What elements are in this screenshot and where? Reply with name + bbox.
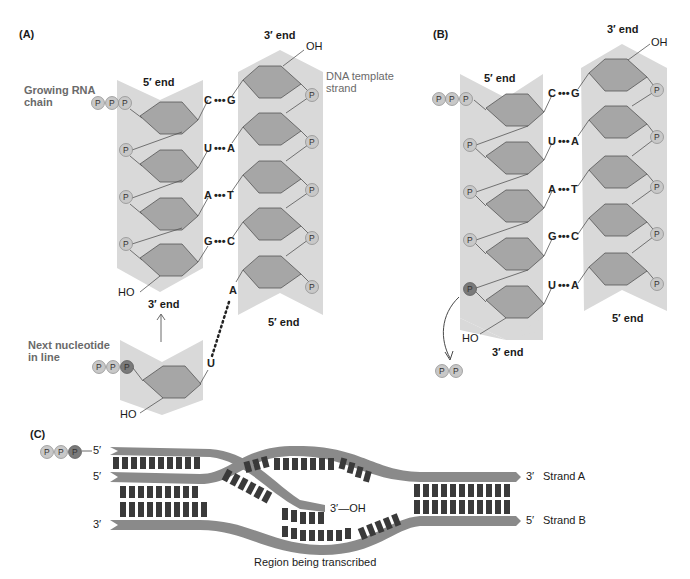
phosphate: P (120, 191, 133, 204)
phosphate: P (651, 181, 664, 194)
svg-text:C: C (227, 235, 235, 247)
svg-text:G: G (204, 235, 213, 247)
svg-text:P: P (309, 137, 315, 147)
svg-text:P: P (654, 132, 660, 142)
rna-ho-label: HO (462, 332, 479, 344)
base-pair: A•••T (204, 189, 234, 201)
svg-text:A: A (571, 279, 579, 291)
rna-3-end-label: 3′ end (148, 298, 179, 310)
transcription-diagram: (A) Growing RNA chain 5′ end (0, 0, 690, 579)
svg-text:P: P (654, 279, 660, 289)
svg-text:P: P (309, 185, 315, 195)
panel-a: (A) Growing RNA chain 5′ end (19, 28, 394, 420)
base-pair: U•••A (548, 279, 579, 291)
phosphate: P (464, 186, 477, 199)
svg-text:P: P (436, 94, 442, 104)
rna-5-end-label: 5′ end (484, 72, 515, 84)
dna-5-end-label: 5′ end (612, 312, 643, 324)
phosphate: P (306, 281, 319, 294)
base-pair: U•••A (204, 142, 235, 154)
phosphate: P (120, 238, 133, 251)
base-pair: G•••C (204, 235, 235, 247)
svg-text:P: P (72, 447, 78, 457)
phosphate: P (651, 228, 664, 241)
svg-text:P: P (110, 362, 116, 372)
phosphate-group: P P P (433, 93, 473, 106)
svg-text:P: P (467, 235, 473, 245)
next-nucleotide-label: Next nucleotide (28, 339, 110, 351)
svg-text:P: P (309, 90, 315, 100)
svg-text:P: P (463, 94, 469, 104)
svg-text:U: U (548, 135, 556, 147)
svg-text:T: T (571, 183, 578, 195)
svg-text:P: P (124, 362, 130, 372)
dna-template-label-2: strand (326, 82, 357, 94)
strand-b (110, 516, 521, 555)
svg-text:P: P (95, 98, 101, 108)
phosphate: P (464, 139, 477, 152)
svg-text:P: P (44, 447, 50, 457)
dna-template-label: DNA template (326, 70, 394, 82)
svg-text:A: A (227, 142, 235, 154)
phosphate: P (120, 144, 133, 157)
base-pair: A•••T (548, 183, 578, 195)
svg-text:P: P (654, 229, 660, 239)
svg-text:C: C (548, 87, 556, 99)
triphosphate-group: P P P (93, 361, 134, 374)
next-nucleotide-label-2: in line (28, 351, 60, 363)
strand-b-right-label: 5′ (526, 514, 534, 526)
next-nucleotide-ho: HO (120, 408, 137, 420)
dna-oh-label: OH (651, 36, 668, 48)
strand-a-label: Strand A (543, 470, 586, 482)
pyrophosphate: P P (436, 365, 463, 378)
svg-text:P: P (309, 282, 315, 292)
svg-text:•••: ••• (214, 142, 226, 154)
rna-3-end-label: 3′ end (492, 346, 523, 358)
svg-text:•••: ••• (558, 230, 570, 242)
panel-b: (B) 5′ end (433, 23, 668, 378)
svg-text:P: P (439, 366, 445, 376)
base-pair: G•••C (548, 230, 579, 242)
strand-b-label: Strand B (543, 514, 586, 526)
phosphate: P (306, 89, 319, 102)
svg-text:A: A (548, 183, 556, 195)
curved-arrow-icon (443, 297, 459, 360)
rna-5-prime-label: 5′ (93, 444, 101, 456)
svg-text:P: P (122, 98, 128, 108)
svg-text:P: P (654, 182, 660, 192)
phosphate: P (651, 278, 664, 291)
svg-text:G: G (548, 230, 557, 242)
svg-text:•••: ••• (214, 235, 226, 247)
phosphate: P (306, 232, 319, 245)
phosphate: P (651, 84, 664, 97)
rna-5-end-label: 5′ end (143, 76, 174, 88)
svg-text:G: G (227, 94, 236, 106)
phosphate-new: P (464, 283, 477, 296)
svg-text:U: U (204, 142, 212, 154)
base-pair: C•••G (548, 87, 580, 99)
svg-text:C: C (204, 94, 212, 106)
base-pair: C•••G (204, 94, 236, 106)
svg-text:P: P (309, 233, 315, 243)
svg-text:P: P (123, 192, 129, 202)
svg-text:P: P (453, 366, 459, 376)
phosphate: P (306, 136, 319, 149)
svg-text:•••: ••• (214, 94, 226, 106)
svg-text:•••: ••• (558, 279, 570, 291)
rna-ho-label: HO (118, 286, 135, 298)
dna-oh-label: OH (306, 40, 323, 52)
svg-text:•••: ••• (558, 183, 570, 195)
strand-a-left-label: 5′ (93, 470, 101, 482)
growing-rna-label: Growing RNA (24, 84, 96, 96)
arrow-up-icon (157, 314, 165, 342)
svg-text:P: P (467, 140, 473, 150)
rna-triphosphate: P P P (41, 446, 93, 459)
unpaired-dna-base: A (229, 284, 237, 296)
svg-text:P: P (109, 98, 115, 108)
svg-text:P: P (467, 284, 473, 294)
svg-text:C: C (571, 230, 579, 242)
svg-text:P: P (96, 362, 102, 372)
svg-text:•••: ••• (214, 189, 226, 201)
panel-a-label: (A) (19, 28, 35, 40)
svg-text:P: P (449, 94, 455, 104)
